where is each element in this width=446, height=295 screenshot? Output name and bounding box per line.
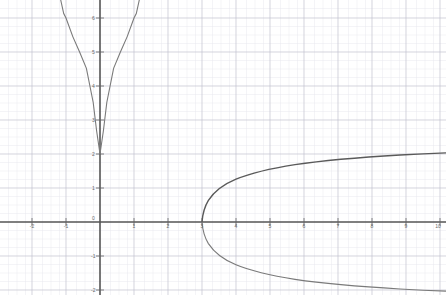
- curve-rightward-parabola-upper: [202, 153, 446, 222]
- x-tick-label-7: 7: [337, 224, 340, 229]
- y-tick-label-6: 6: [92, 16, 95, 21]
- y-tick-label-4: 4: [92, 84, 95, 89]
- x-tick-label-8: 8: [371, 224, 374, 229]
- x-tick-label-1: 1: [133, 224, 136, 229]
- coordinate-plane-graph: -2 -1 1 2 3 4 5 6 7 8 9 10 6 5 4 3 2 1 0…: [0, 0, 446, 295]
- major-gridlines: [0, 0, 446, 295]
- x-tick-label-5: 5: [269, 224, 272, 229]
- plot-area: [0, 0, 446, 295]
- x-tick-label-10: 10: [435, 224, 441, 229]
- x-tick-label-6: 6: [303, 224, 306, 229]
- x-tick-label--1: -1: [64, 224, 68, 229]
- y-tick-label--1: -1: [91, 254, 95, 259]
- x-tick-label--2: -2: [30, 224, 34, 229]
- x-tick-label-9: 9: [405, 224, 408, 229]
- y-tick-label-1: 1: [92, 186, 95, 191]
- y-tick-label-5: 5: [92, 50, 95, 55]
- x-tick-label-3: 3: [201, 224, 204, 229]
- y-tick-label--2: -2: [91, 288, 95, 293]
- x-tick-label-4: 4: [235, 224, 238, 229]
- minor-gridlines: [0, 0, 446, 295]
- x-tick-label-2: 2: [167, 224, 170, 229]
- axes: [0, 0, 446, 295]
- y-tick-label-3: 3: [92, 118, 95, 123]
- y-tick-label-0: 0: [92, 216, 95, 221]
- y-tick-label-2: 2: [92, 152, 95, 157]
- curve-rightward-parabola-lower: [202, 222, 446, 291]
